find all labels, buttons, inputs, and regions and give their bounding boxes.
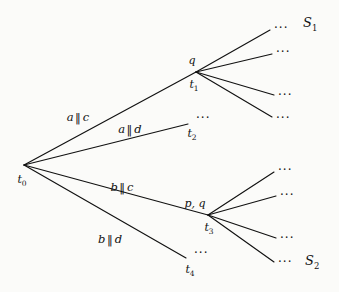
- ellipsis-t3-branch-3: ···: [280, 232, 294, 244]
- ellipsis-t2: ···: [196, 112, 210, 124]
- tree-edge-t1-b1: [196, 30, 270, 72]
- node-annotation-pq-at-t3: p, q: [184, 198, 205, 209]
- tree-edges: [0, 0, 339, 292]
- edge-label-a-par-c: a‖c: [67, 112, 90, 124]
- tree-edge-t3-b2: [208, 196, 276, 215]
- tree-edge-t3-b3: [208, 215, 276, 238]
- computation-tree-figure: t0 t1 t2 t3 t4 q p, q a‖c a‖d b‖c b‖d ··…: [0, 0, 339, 292]
- tree-edge-t1-b3: [196, 72, 274, 95]
- ellipsis-t1-branch-1: ···: [274, 22, 288, 34]
- tree-edge-t3-b4: [208, 215, 274, 262]
- node-annotation-q-at-t1: q: [188, 55, 195, 66]
- set-label-S2: S2: [305, 254, 319, 270]
- ellipsis-t1-branch-2: ···: [276, 46, 290, 58]
- edge-label-b-par-d: b‖d: [98, 234, 122, 246]
- tree-edge-t0-t1: [24, 72, 196, 165]
- set-label-S1: S1: [303, 16, 317, 32]
- edge-label-b-par-c: b‖c: [110, 182, 133, 194]
- node-label-t2: t2: [187, 128, 196, 142]
- node-label-t1: t1: [189, 79, 198, 93]
- ellipsis-t3-branch-4: ···: [278, 256, 292, 268]
- edge-label-a-par-d: a‖d: [118, 124, 141, 136]
- tree-edge-t1-b2: [196, 54, 272, 72]
- ellipsis-t3-branch-1: ···: [278, 164, 292, 176]
- tree-edge-t3-b1: [208, 172, 274, 215]
- node-label-t4: t4: [185, 264, 194, 278]
- ellipsis-t4: ···: [194, 247, 208, 259]
- ellipsis-t1-branch-3: ···: [278, 89, 292, 101]
- ellipsis-t1-branch-4: ···: [276, 112, 290, 124]
- ellipsis-t3-branch-2: ···: [280, 189, 294, 201]
- tree-edge-t0-t2: [24, 124, 188, 165]
- node-label-t3: t3: [204, 222, 213, 236]
- node-label-t0: t0: [17, 174, 26, 188]
